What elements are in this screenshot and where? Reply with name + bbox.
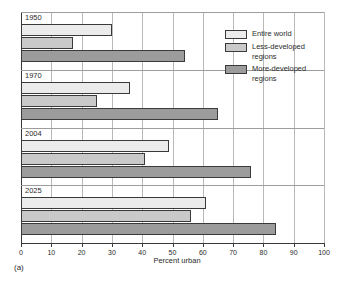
- bar-2004-less-developed-regions: [21, 153, 145, 165]
- tick-0: [21, 243, 22, 247]
- bar-2025-entire-world: [21, 197, 206, 209]
- bar-1970-entire-world: [21, 82, 130, 94]
- legend-label: More-developed regions: [252, 64, 306, 83]
- group-separator: [21, 128, 324, 129]
- tick-30: [112, 243, 113, 247]
- bar-1950-entire-world: [21, 24, 112, 36]
- tick-100: [324, 243, 325, 247]
- x-axis-label: Percent urban: [0, 256, 354, 265]
- group-label-1970: 1970: [24, 71, 43, 81]
- legend-item: Entire world: [225, 29, 350, 39]
- tick-20: [82, 243, 83, 247]
- bar-1950-more-developed-regions: [21, 50, 185, 62]
- bar-group: 2025: [21, 185, 324, 243]
- tick-70: [233, 243, 234, 247]
- tick-40: [142, 243, 143, 247]
- legend-swatch-1: [225, 43, 247, 52]
- legend: Entire worldLess-developed regionsMore-d…: [225, 29, 350, 86]
- bar-group: 2004: [21, 128, 324, 186]
- legend-label: Entire world: [252, 29, 292, 39]
- legend-item: Less-developed regions: [225, 42, 350, 61]
- legend-swatch-0: [225, 30, 247, 39]
- bar-1950-less-developed-regions: [21, 37, 73, 49]
- bar-2004-entire-world: [21, 140, 169, 152]
- bar-1970-less-developed-regions: [21, 95, 97, 107]
- group-separator: [21, 185, 324, 186]
- bar-2025-less-developed-regions: [21, 210, 191, 222]
- figure-panel-a: 1950197020042025 0102030405060708090100 …: [0, 0, 354, 282]
- tick-10: [51, 243, 52, 247]
- tick-50: [173, 243, 174, 247]
- legend-swatch-2: [225, 65, 247, 74]
- figure-caption: (a): [14, 263, 24, 272]
- group-label-2004: 2004: [24, 129, 43, 139]
- tick-90: [294, 243, 295, 247]
- legend-label: Less-developed regions: [252, 42, 305, 61]
- tick-60: [203, 243, 204, 247]
- group-label-1950: 1950: [24, 13, 43, 23]
- tick-80: [263, 243, 264, 247]
- group-label-2025: 2025: [24, 186, 43, 196]
- bar-2025-more-developed-regions: [21, 223, 276, 235]
- group-separator: [21, 12, 324, 13]
- bar-1970-more-developed-regions: [21, 108, 218, 120]
- bar-2004-more-developed-regions: [21, 166, 251, 178]
- legend-item: More-developed regions: [225, 64, 350, 83]
